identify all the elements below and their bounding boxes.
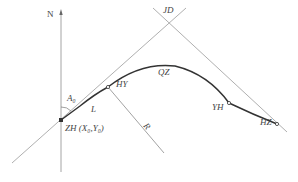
- zh-label: ZH (X₀,Y₀): [65, 124, 104, 133]
- tangent-line-2: [153, 8, 287, 132]
- hz-label: HZ: [260, 118, 272, 127]
- yh-label: YH: [212, 103, 224, 112]
- diagram-canvas: [0, 0, 298, 182]
- hy-point-marker: [106, 85, 109, 88]
- azimuth-arc: [61, 107, 71, 111]
- length-label: L: [91, 105, 96, 114]
- tangent-line-1: [12, 8, 186, 163]
- hz-point-marker: [275, 122, 278, 125]
- azimuth-label: A₀: [67, 94, 76, 103]
- north-arrow-icon: [59, 9, 62, 15]
- hy-label: HY: [116, 80, 128, 89]
- jd-label: JD: [163, 6, 174, 15]
- zh-point-marker: [59, 118, 63, 122]
- radius-line: [108, 87, 164, 153]
- qz-label: QZ: [158, 68, 170, 77]
- north-label: N: [47, 10, 54, 19]
- yh-point-marker: [227, 101, 230, 104]
